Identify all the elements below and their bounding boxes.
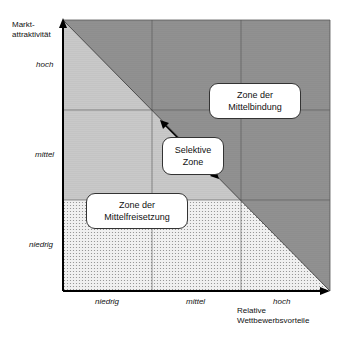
x-axis-title: Relative Wettbewerbsvorteile	[237, 306, 309, 326]
zone-mittelbindung-box: Zone derMittelbindung	[209, 83, 301, 119]
y-tick-hoch: hoch	[36, 60, 53, 70]
zone-label-line2: Mittelbindung	[228, 101, 282, 113]
zone-label-line1: Zone der	[104, 199, 170, 211]
zone-label-line1: Selektive	[175, 144, 212, 156]
y-tick-niedrig: niedrig	[29, 240, 53, 250]
y-tick-mittel: mittel	[35, 150, 54, 160]
zone-label-line1: Zone der	[228, 89, 282, 101]
selective-zone-box: SelektiveZone	[162, 137, 224, 175]
y-axis-title: Markt- attraktivität	[12, 20, 51, 40]
x-tick-mittel: mittel	[186, 297, 205, 307]
zone-label-line2: Zone	[175, 156, 212, 168]
zone-mittelfreisetzung-box: Zone derMittelfreisetzung	[86, 193, 188, 229]
zone-label-line2: Mittelfreisetzung	[104, 211, 170, 223]
x-tick-niedrig: niedrig	[95, 297, 119, 307]
